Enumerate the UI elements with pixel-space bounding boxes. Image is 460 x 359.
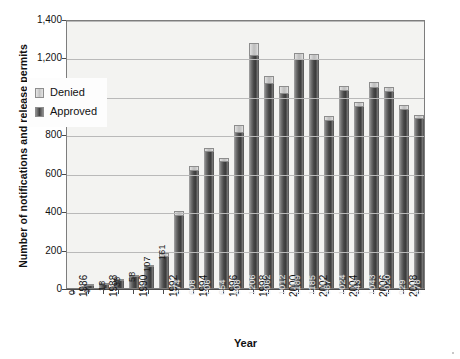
- bar-1996: [219, 158, 229, 288]
- bar-value-label: 18: [97, 281, 107, 291]
- bar-value-label: 161: [157, 245, 167, 261]
- y-axis-tick-label: 0: [18, 283, 62, 294]
- bar-segment-approved: [414, 119, 424, 288]
- bar-segment-approved: [339, 91, 349, 288]
- plot-area: [66, 20, 425, 289]
- bar-segment-approved: [264, 84, 274, 288]
- bar-value-label: 0: [67, 290, 77, 295]
- legend-label-denied: Denied: [50, 83, 85, 102]
- bar-value-label: 706: [202, 279, 212, 295]
- bar-value-label: 1020: [382, 274, 392, 295]
- bar-segment-approved: [324, 121, 334, 288]
- bar-2000: [279, 86, 289, 288]
- bar-value-label: 9: [82, 288, 92, 293]
- y-axis-tick: [62, 58, 66, 59]
- bar-series-group: [67, 21, 424, 288]
- legend-swatch-approved-icon: [35, 107, 44, 117]
- bar-value-label: 943: [352, 279, 362, 295]
- legend-item-denied: Denied: [35, 83, 97, 102]
- bar-segment-denied: [249, 43, 259, 56]
- bar-segment-denied: [234, 125, 244, 133]
- bar-segment-approved: [354, 107, 364, 288]
- bar-segment-approved: [204, 152, 214, 288]
- y-axis-tick: [62, 251, 66, 252]
- bar-2004: [339, 85, 349, 288]
- y-axis-tick: [62, 174, 66, 175]
- bar-segment-denied: [204, 148, 214, 153]
- y-axis-tick-label: 200: [18, 245, 62, 256]
- legend-item-approved: Approved: [35, 102, 97, 121]
- page-speck: [452, 352, 454, 354]
- bar-value-label: 1024: [337, 274, 347, 295]
- y-axis-title: Number of notifications and release perm…: [17, 41, 29, 271]
- bar-value-label: 1062: [262, 274, 272, 295]
- bar-1999: [264, 76, 274, 289]
- bar-1995: [204, 148, 214, 288]
- bar-segment-denied: [414, 115, 424, 119]
- legend-label-approved: Approved: [50, 102, 97, 121]
- bar-value-label: 1189: [292, 275, 302, 295]
- x-axis-tick: [163, 289, 164, 294]
- y-gridline: [67, 136, 424, 137]
- y-gridline: [67, 98, 424, 99]
- y-gridline: [67, 252, 424, 253]
- chart-container: Number of notifications and release perm…: [0, 0, 460, 359]
- bar-value-label: 1206: [247, 274, 257, 295]
- y-axis-tick-label: 800: [18, 129, 62, 140]
- bar-1997: [234, 125, 244, 288]
- bar-value-label: 867: [322, 279, 332, 295]
- bar-segment-denied: [339, 86, 349, 92]
- bar-segment-denied: [189, 166, 199, 171]
- bar-value-label: 608: [187, 279, 197, 295]
- x-axis-tick: [133, 289, 134, 294]
- bar-1994: [189, 166, 199, 288]
- y-gridline: [67, 21, 424, 22]
- y-gridline: [67, 175, 424, 176]
- bar-segment-approved: [249, 56, 259, 288]
- bar-segment-denied: [264, 76, 274, 84]
- legend: Denied Approved: [27, 78, 107, 127]
- bar-segment-denied: [384, 87, 394, 92]
- x-axis-tick: [118, 289, 119, 294]
- bar-value-label: 654: [217, 279, 227, 295]
- x-axis-title: Year: [66, 337, 425, 349]
- bar-value-label: 1043: [367, 274, 377, 295]
- y-axis-tick-label: 1,200: [18, 52, 62, 63]
- x-axis-tick: [148, 289, 149, 294]
- bar-2008: [399, 105, 409, 288]
- bar-segment-approved: [279, 94, 289, 288]
- y-axis-tick: [62, 20, 66, 21]
- bar-segment-denied: [279, 86, 289, 94]
- y-axis-tick: [62, 135, 66, 136]
- bar-2006: [369, 82, 379, 288]
- bar-value-label: 878: [412, 279, 422, 295]
- bar-value-label: 1012: [277, 274, 287, 295]
- bar-2002: [309, 54, 319, 288]
- bar-segment-denied: [399, 105, 409, 110]
- bar-segment-denied: [369, 82, 379, 88]
- bar-value-label: 808: [232, 279, 242, 295]
- bar-value-label: 107: [142, 256, 152, 272]
- bar-2001: [294, 53, 304, 288]
- bar-segment-approved: [234, 133, 244, 288]
- bar-value-label: 929: [397, 279, 407, 295]
- bar-value-label: 58: [127, 272, 137, 282]
- bar-segment-approved: [384, 92, 394, 288]
- bar-segment-approved: [189, 171, 199, 288]
- bar-segment-approved: [219, 162, 229, 288]
- bar-2007: [384, 87, 394, 288]
- bar-2003: [324, 116, 334, 288]
- bar-value-label: 374: [172, 279, 182, 295]
- y-axis-tick: [62, 212, 66, 213]
- bar-segment-denied: [354, 102, 364, 107]
- bar-segment-approved: [369, 88, 379, 288]
- y-axis-tick-label: 600: [18, 168, 62, 179]
- bar-2009: [414, 115, 424, 288]
- bar-value-label: 1185: [307, 275, 317, 295]
- bar-segment-denied: [219, 158, 229, 162]
- y-gridline: [67, 213, 424, 214]
- bar-2005: [354, 102, 364, 288]
- y-axis-tick-label: 400: [18, 206, 62, 217]
- legend-swatch-denied-icon: [35, 88, 44, 98]
- y-gridline: [67, 59, 424, 60]
